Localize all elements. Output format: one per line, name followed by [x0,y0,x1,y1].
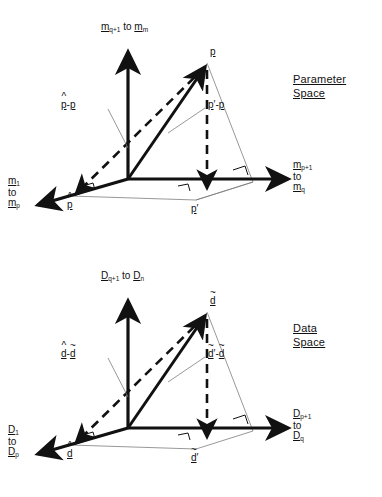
axis-vertical-sub-to: n [140,275,144,282]
axis-vertical-symbol-to: m [134,21,142,32]
axis-right-joiner: to [293,171,301,182]
axis-vertical-joiner: to [123,21,131,32]
hat-accent-icon: ^ [67,193,73,201]
hat-accent-icon: ^ [61,93,67,101]
point-label-left-foot: ^p [67,200,73,210]
vector-label-dashed: ^d-~d [61,349,75,359]
axis-right-sub-to: q [301,186,305,193]
point-label-left-foot: ^d [67,449,73,459]
axis-vertical-sub-from: q+1 [108,275,119,282]
vector-p-hat-minus-p [76,67,205,194]
point-label-apex: p [210,47,216,57]
axis-label-vertical: Dq+1 to Dn [101,271,144,282]
panel-title-line2: Space [293,86,346,100]
axis-left-sub-from: 1 [16,180,20,187]
axis-left-sub-to: p [16,202,20,209]
axis-left-sub-to: p [15,451,19,458]
point-label-apex: ~d [210,296,216,306]
parameter-space-diagram: mq+1 to mm mp+1 to mq m1 to mp p ^p p′ ^… [0,0,382,248]
panel-title: Data Space [293,321,325,349]
axis-right-sub-from: p+1 [300,413,311,420]
vector-d [128,316,205,428]
vector-label-dashed: ^p-p [61,100,75,110]
hat-accent-icon: ^ [61,342,67,350]
tilde-accent-icon: ~ [191,446,197,454]
prime-accent-icon: ′ [197,203,199,214]
vector-label-thin: p′-p [208,100,224,110]
axis-label-left: D1 to Dp [8,425,19,459]
axis-left-joiner: to [8,187,16,198]
data-space-diagram: Dq+1 to Dn Dp+1 to Dq D1 to Dp ~d ^d ~d′… [0,249,382,497]
hat-accent-icon: ^ [67,442,73,450]
panel-title-line2: Space [293,335,325,349]
axis-left [38,179,128,205]
tilde-accent-icon: ~ [70,342,76,350]
vector-p [128,67,205,179]
axis-right-sub-from: p+1 [301,164,312,171]
vector-d-hat-minus-d [76,316,205,443]
panel-title-line1: Parameter [293,72,346,86]
axis-vertical-sub-from: q+1 [109,26,120,33]
panel-title-line1: Data [293,321,325,335]
axis-label-right: Dp+1 to Dq [293,409,311,443]
axis-label-left: m1 to mp [8,176,20,210]
vector-label-thin: ~d′-~d [208,349,224,359]
dashed-subtrahend: p [70,99,76,110]
tilde-accent-icon: ~ [210,289,216,297]
apex-symbol: p [210,46,216,57]
axis-right-joiner: to [293,420,301,431]
panel-title: Parameter Space [293,72,346,100]
axis-vertical-sub-to: m [143,26,148,33]
axis-label-vertical: mq+1 to mm [101,22,148,33]
axis-left [38,428,128,454]
tilde-accent-icon: ~ [219,342,225,350]
tilde-accent-icon: ~ [208,342,214,350]
axis-left-sub-from: 1 [15,429,19,436]
axis-right-sub-to: q [300,435,304,442]
point-label-right-foot: p′ [191,204,198,214]
axis-label-right: mp+1 to mq [293,160,312,194]
axis-vertical-joiner: to [122,270,130,281]
thin-subtrahend: p [219,99,225,110]
point-label-right-foot: ~d′ [191,453,198,463]
axis-left-joiner: to [8,436,16,447]
